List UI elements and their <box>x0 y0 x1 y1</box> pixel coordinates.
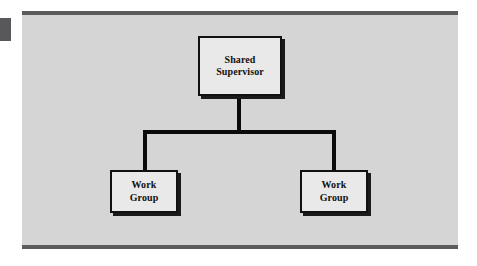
node-shared-supervisor-line1: Shared <box>225 54 256 65</box>
node-work-group-right-line2: Group <box>320 192 349 204</box>
node-shared-supervisor[interactable]: Shared Supervisor <box>198 36 282 96</box>
connector-drop-left <box>143 130 147 171</box>
node-shared-supervisor-label: Shared Supervisor <box>216 54 264 78</box>
node-work-group-left-line2: Group <box>130 192 159 204</box>
panel-top-rule <box>22 11 458 15</box>
panel-bottom-rule <box>22 245 458 249</box>
node-work-group-left[interactable]: Work Group <box>110 170 178 213</box>
node-work-group-right-label: Work Group <box>320 179 349 203</box>
node-work-group-left-label: Work Group <box>130 179 159 203</box>
connector-horizontal-bus <box>143 130 336 134</box>
page-margin-artifact <box>0 18 11 41</box>
node-shared-supervisor-line2: Supervisor <box>216 66 264 78</box>
connector-supervisor-trunk <box>237 96 241 134</box>
node-work-group-left-line1: Work <box>132 179 157 190</box>
connector-drop-right <box>332 130 336 171</box>
node-work-group-right-line1: Work <box>322 179 347 190</box>
node-work-group-right[interactable]: Work Group <box>300 170 368 213</box>
